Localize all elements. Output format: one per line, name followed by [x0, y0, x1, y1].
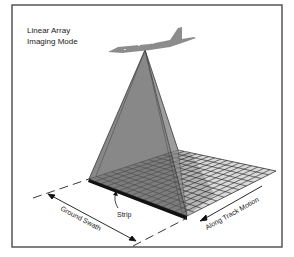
linear-array-diagram: Ground Swath Strip Along Track Motion Li… [0, 0, 294, 257]
title-line-2: Imaging Mode [27, 37, 78, 46]
strip-label: Strip [117, 211, 132, 219]
title-line-1: Linear Array [27, 26, 70, 35]
